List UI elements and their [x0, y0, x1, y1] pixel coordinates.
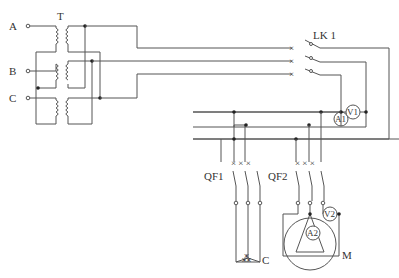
capacitor-label: C: [262, 254, 269, 266]
voltmeter-v1-label: V1: [347, 107, 358, 117]
ammeter-a2-label: A2: [307, 228, 318, 238]
svg-text:×: ×: [289, 69, 294, 79]
terminal-a: [26, 24, 30, 28]
breaker-qf2-label: QF2: [268, 170, 288, 182]
schematic: A B C T × × × LK 1: [0, 0, 399, 278]
terminal-c: [26, 96, 30, 100]
breaker-qf1: × × ×: [231, 158, 262, 262]
transformer: [30, 24, 102, 124]
svg-text:⁂: ⁂: [242, 254, 251, 264]
svg-text:×: ×: [289, 56, 294, 66]
breaker-qf1-label: QF1: [204, 170, 224, 182]
switch-lk1: [193, 40, 389, 139]
switch-label: LK 1: [313, 29, 336, 41]
svg-text:× × ×: × × ×: [231, 158, 251, 168]
input-label-c: C: [9, 92, 16, 104]
transformer-label: T: [57, 10, 64, 22]
svg-text:×: ×: [289, 43, 294, 53]
svg-text:× × ×: × × ×: [295, 158, 315, 168]
terminal-b: [26, 69, 30, 73]
input-label-a: A: [9, 20, 17, 32]
capacitor-bank: ⁂: [236, 254, 260, 264]
voltmeter-v2-label: V2: [324, 209, 335, 219]
fuse-marks: × × ×: [289, 43, 294, 79]
motor-label: M: [342, 249, 352, 261]
input-label-b: B: [9, 65, 16, 77]
motor: [284, 218, 336, 270]
